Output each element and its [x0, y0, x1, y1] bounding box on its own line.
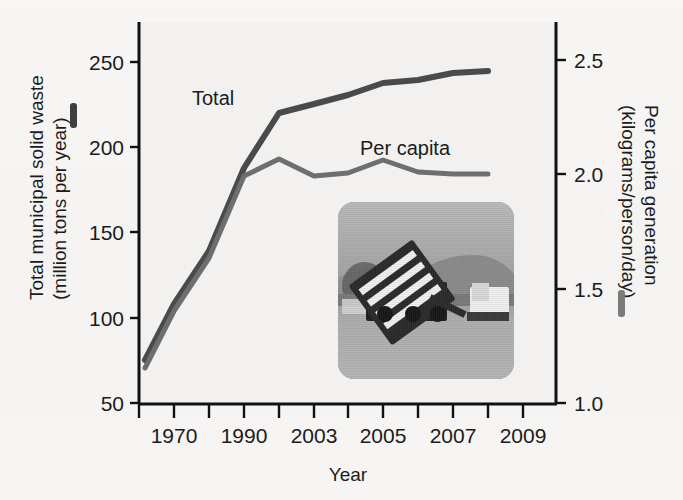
- series-line-per-capita: [145, 159, 488, 368]
- left-axis-title-line2: (million tons per year): [49, 117, 70, 300]
- x-axis-title: Year: [329, 464, 368, 485]
- x-tick-label-1990: 1990: [221, 424, 268, 447]
- left-tick-label-200: 200: [89, 136, 124, 159]
- right-tick-label-1-0: 1.0: [574, 392, 603, 415]
- right-axis-title-line1: Per capita generation: [641, 105, 662, 286]
- left-tick-label-250: 250: [89, 51, 124, 74]
- right-axis-series-marker: [618, 290, 625, 317]
- right-axis-title-line2: (kilograms/person/day): [618, 105, 639, 298]
- series-annotation-per-capita: Per capita: [360, 137, 451, 159]
- left-axis-title-line1: Total municipal solid waste: [26, 75, 47, 300]
- x-tick-label-2009: 2009: [500, 424, 547, 447]
- left-tick-label-50: 50: [101, 392, 124, 415]
- left-axis-series-marker: [70, 103, 77, 128]
- left-tick-label-100: 100: [89, 307, 124, 330]
- right-tick-label-1-5: 1.5: [574, 278, 603, 301]
- series-line-total: [145, 71, 488, 360]
- right-axis: 2.5 2.0 1.5 1.0: [556, 22, 603, 415]
- chart-svg: 250 200 150 100 50 2.5 2.0 1.5 1.0: [0, 0, 683, 500]
- series-annotation-total: Total: [192, 87, 234, 109]
- x-tick-label-1970: 1970: [151, 424, 198, 447]
- x-tick-label-2003: 2003: [291, 424, 338, 447]
- left-axis-title-group: Total municipal solid waste (million ton…: [26, 75, 77, 300]
- x-tick-label-2005: 2005: [360, 424, 407, 447]
- chart-figure: 250 200 150 100 50 2.5 2.0 1.5 1.0: [0, 0, 683, 500]
- x-axis: 1970 1990 2003 2005 2007 2009 Year: [139, 404, 557, 485]
- right-tick-label-2-0: 2.0: [574, 163, 603, 186]
- x-tick-label-2007: 2007: [430, 424, 477, 447]
- right-axis-title-group: Per capita generation (kilograms/person/…: [618, 105, 662, 317]
- left-tick-label-150: 150: [89, 221, 124, 244]
- right-tick-label-2-5: 2.5: [574, 49, 603, 72]
- left-axis: 250 200 150 100 50: [89, 22, 139, 415]
